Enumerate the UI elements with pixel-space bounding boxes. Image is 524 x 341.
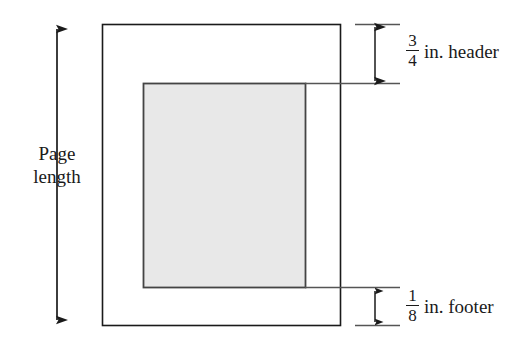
footer-fraction-numerator: 1	[406, 287, 419, 305]
header-fraction: 3 4	[406, 32, 419, 69]
header-fraction-denominator: 4	[406, 51, 419, 69]
header-measure-label: 3 4 in. header	[406, 33, 499, 70]
header-fraction-numerator: 3	[406, 32, 419, 50]
page-length-label-line1: Page	[0, 142, 114, 165]
page-layout-diagram: Page length 3 4 in. header 1 8 in. foote…	[0, 0, 524, 341]
text-area-rect	[144, 84, 306, 288]
footer-unit-text: in. footer	[424, 296, 494, 318]
page-length-label-line2: length	[0, 165, 114, 188]
footer-measure-label: 1 8 in. footer	[406, 288, 494, 325]
page-length-label: Page length	[0, 142, 114, 188]
header-unit-text: in. header	[424, 41, 499, 63]
footer-fraction: 1 8	[406, 287, 419, 324]
footer-fraction-denominator: 8	[406, 306, 419, 324]
